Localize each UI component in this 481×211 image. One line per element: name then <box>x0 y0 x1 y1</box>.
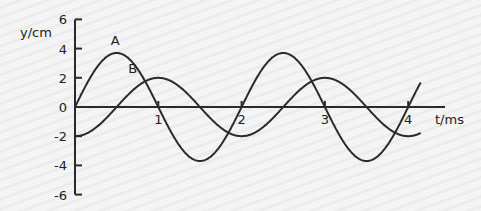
y-tick-label: 6 <box>59 12 67 27</box>
x-axis-label: t/ms <box>435 112 464 127</box>
y-axis-label: y/cm <box>20 25 52 40</box>
y-tick-label: -6 <box>54 188 67 203</box>
y-tick-label: 2 <box>59 71 67 86</box>
wave-chart: 6420-2-4-61234y/cmt/msAB <box>0 0 481 211</box>
curve-b-label: B <box>128 61 137 76</box>
y-tick-label: -2 <box>54 129 67 144</box>
curve-a-label: A <box>111 33 120 48</box>
y-tick-label: 0 <box>59 100 67 115</box>
y-tick-label: -4 <box>54 158 67 173</box>
y-tick-label: 4 <box>59 42 67 57</box>
